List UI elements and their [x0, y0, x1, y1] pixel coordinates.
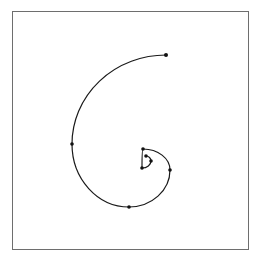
spiral-point: [140, 166, 144, 170]
spiral-point: [127, 205, 131, 209]
spiral-point: [149, 159, 153, 163]
spiral-point: [141, 147, 145, 151]
spiral-point: [144, 154, 148, 158]
spiral-diagram: [0, 0, 262, 267]
spiral-point: [168, 168, 172, 172]
spiral-curve: [72, 55, 170, 207]
spiral-point: [70, 142, 74, 146]
spiral-point: [164, 53, 168, 57]
